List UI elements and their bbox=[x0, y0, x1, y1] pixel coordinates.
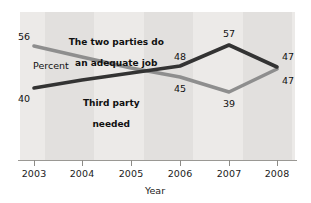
x-tick-label-2008: 2008 bbox=[265, 168, 290, 179]
annotation-third-party-line2: needed bbox=[92, 119, 130, 129]
x-tick-label-2004: 2004 bbox=[70, 168, 95, 179]
annotation-third-party-line1: Third party bbox=[83, 98, 140, 108]
x-tick-label-2005: 2005 bbox=[119, 168, 144, 179]
data-label-gray-2007: 39 bbox=[223, 98, 235, 109]
x-tick bbox=[277, 160, 278, 166]
x-tick bbox=[34, 160, 35, 166]
data-label-gray-2006: 45 bbox=[174, 83, 186, 94]
annotation-two-parties-line2: an adequate job bbox=[75, 58, 157, 68]
x-tick-label-2007: 2007 bbox=[217, 168, 242, 179]
y-axis-label: Percent bbox=[33, 60, 69, 71]
data-label-dark-2007: 57 bbox=[223, 28, 235, 39]
data-label-dark-2008: 47 bbox=[282, 51, 294, 62]
annotation-third-party: Third party needed bbox=[70, 87, 139, 140]
x-tick-label-2006: 2006 bbox=[168, 168, 193, 179]
data-label-gray-2008: 47 bbox=[282, 75, 294, 86]
data-label-dark-2003: 40 bbox=[18, 93, 30, 104]
annotation-two-parties: The two parties do an adequate job bbox=[56, 26, 164, 79]
x-axis-line bbox=[18, 160, 297, 161]
x-axis-title: Year bbox=[145, 185, 165, 196]
x-tick bbox=[82, 160, 83, 166]
x-tick bbox=[229, 160, 230, 166]
chart-figure: 56 40 48 45 57 39 47 47 The two parties … bbox=[0, 0, 311, 203]
data-label-gray-2003: 56 bbox=[18, 31, 30, 42]
annotation-two-parties-line1: The two parties do bbox=[69, 37, 164, 47]
x-tick-label-2003: 2003 bbox=[22, 168, 47, 179]
x-tick bbox=[131, 160, 132, 166]
x-tick bbox=[180, 160, 181, 166]
data-label-dark-2006: 48 bbox=[174, 51, 186, 62]
